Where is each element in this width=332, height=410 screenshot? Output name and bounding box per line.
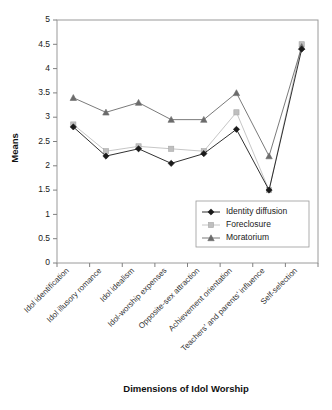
y-tick-label: 0 [45, 257, 50, 267]
y-tick-label: 3 [45, 111, 50, 121]
data-point-marker [234, 110, 239, 115]
y-tick-label: 4 [45, 63, 50, 73]
y-tick-label: 4.5 [38, 39, 50, 49]
x-tick-label: Achievement orientation [167, 266, 234, 333]
x-tick-label: Idol illusory romance [45, 266, 104, 325]
chart-canvas: 00.511.522.533.544.55 Idol identificatio… [0, 0, 332, 410]
legend-label: Identity diffusion [226, 206, 288, 216]
y-tick-label: 0.5 [38, 233, 50, 243]
legend-label: Foreclosure [226, 219, 271, 229]
x-axis-title: Dimensions of Idol Worship [123, 383, 249, 394]
legend-label: Moratorium [226, 232, 269, 242]
x-axis: Idol identificationIdol illusory romance… [22, 263, 318, 353]
idol-worship-line-chart: 00.511.522.533.544.55 Idol identificatio… [0, 0, 332, 410]
x-tick-label: Idol-worship expenses [106, 266, 169, 329]
y-tick-label: 1.5 [38, 184, 50, 194]
y-tick-label: 1 [45, 209, 50, 219]
y-axis: 00.511.522.533.544.55 [38, 14, 57, 267]
y-tick-label: 2 [45, 160, 50, 170]
data-point-marker [169, 146, 174, 151]
x-tick-label: Opposite-sex attraction [137, 266, 202, 331]
y-tick-label: 5 [45, 14, 50, 24]
y-axis-title: Means [9, 133, 20, 163]
chart-legend: Identity diffusionForeclosureMoratorium [196, 201, 309, 247]
y-tick-label: 2.5 [38, 136, 50, 146]
y-tick-label: 3.5 [38, 87, 50, 97]
data-point-marker [208, 222, 213, 227]
